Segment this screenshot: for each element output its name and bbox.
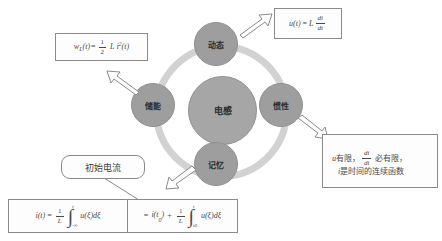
continuity-fraction-denominator: dt: [362, 158, 371, 167]
current-formula-left-cell: i(t) = 1 L ∫ t -∞ u(ξ)dξ: [9, 200, 128, 232]
current-right-fraction: 1 L: [177, 208, 185, 225]
integral-sign-icon: ∫: [189, 211, 194, 222]
current-formula-left: i(t) = 1 L ∫ t -∞ u(ξ)dξ: [35, 206, 100, 226]
energy-lhs-arg: (t): [83, 43, 91, 51]
current-right-fraction-denominator: L: [177, 216, 185, 225]
arrow-to-current: [166, 166, 196, 189]
voltage-fraction: di dt: [316, 15, 325, 32]
arrow-to-energy: [107, 71, 139, 95]
current-right-lower-limit: t0: [193, 223, 197, 228]
initial-current-callout[interactable]: 初始电流: [61, 155, 145, 179]
current-right-plus: +: [167, 212, 172, 220]
energy-half-fraction: 1 2: [99, 39, 107, 56]
current-left-lower-limit: -∞: [72, 223, 77, 228]
current-right-initial-term: i(t0): [151, 211, 164, 221]
voltage-fraction-denominator: dt: [316, 23, 325, 32]
energy-fraction-numerator: 1: [99, 39, 107, 47]
current-left-integrand: u(ξ)dξ: [80, 212, 100, 220]
current-right-integral: ∫ t t0: [188, 206, 197, 226]
continuity-line2-text: 是时间的连续函数: [340, 168, 404, 176]
current-left-fraction-numerator: 1: [56, 208, 64, 216]
current-right-equals: =: [144, 212, 149, 220]
continuity-note-box: u 有限， di dt 必有限， i 是时间的连续函数: [322, 134, 438, 188]
energy-exponent: 2: [119, 41, 122, 47]
callout-leader: [104, 178, 139, 200]
voltage-formula-box: u(t) = L di dt: [274, 8, 342, 39]
continuity-line1-text-a: 有限，: [336, 155, 360, 163]
current-left-equals: =: [47, 212, 52, 220]
energy-formula: wL(t) = 1 2 L i2(t): [74, 39, 129, 56]
continuity-line-2: i 是时间的连续函数: [338, 168, 404, 176]
current-left-upper-limit: t: [72, 204, 77, 209]
energy-lhs-subscript: L: [79, 46, 82, 52]
initial-current-callout-label: 初始电流: [85, 161, 121, 174]
continuity-fraction: di dt: [362, 150, 371, 167]
continuity-line-1: u 有限， di dt 必有限，: [332, 150, 407, 167]
voltage-coef: L: [309, 20, 313, 28]
energy-coefficient: L i: [110, 43, 119, 51]
integral-sign-icon: ∫: [68, 211, 73, 222]
voltage-equals: =: [303, 20, 308, 28]
energy-equals: =: [91, 43, 96, 51]
current-left-fraction-denominator: L: [56, 216, 64, 225]
current-right-fraction-numerator: 1: [177, 208, 185, 216]
current-right-upper-limit: t: [193, 204, 197, 209]
current-left-fraction: 1 L: [56, 208, 64, 225]
arrow-to-voltage: [240, 14, 272, 38]
voltage-fraction-numerator: di: [316, 15, 325, 23]
current-left-lhs: i(t): [35, 212, 45, 220]
diagram-canvas: 电感 动态 储能 惯性 记忆: [0, 0, 442, 241]
current-formula-right: = i(t0) + 1 L ∫ t t0 u(ξ)dξ: [144, 206, 221, 226]
current-formula-right-cell: = i(t0) + 1 L ∫ t t0 u(ξ)dξ: [128, 200, 237, 232]
current-right-integrand: u(ξ)dξ: [201, 212, 221, 220]
voltage-lhs: u(t): [289, 20, 301, 28]
energy-fraction-denominator: 2: [99, 47, 107, 56]
current-right-term-end: ): [161, 210, 164, 219]
continuity-fraction-numerator: di: [362, 150, 371, 158]
current-left-integral: ∫ t -∞: [67, 206, 78, 226]
continuity-line1-text-b: 必有限，: [375, 155, 407, 163]
energy-arg: (t): [122, 43, 130, 51]
current-formula-box: i(t) = 1 L ∫ t -∞ u(ξ)dξ = i(t0: [8, 199, 238, 233]
voltage-formula: u(t) = L di dt: [289, 15, 327, 32]
energy-formula-box: wL(t) = 1 2 L i2(t): [55, 33, 148, 61]
